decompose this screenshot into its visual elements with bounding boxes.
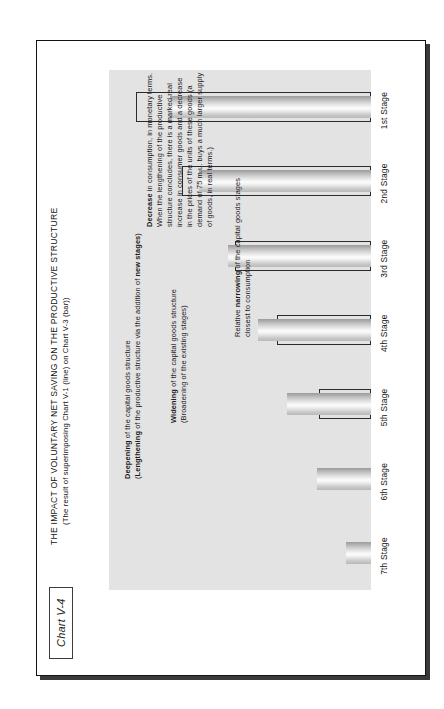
bar-7th-stage (346, 542, 371, 564)
annotation-widening-rest: of the capital goods structure (169, 289, 178, 389)
annotation-decrease-text: Decrease in consumption, in monetary ter… (145, 71, 215, 227)
annotation-narrowing-line2: closest to consumption (243, 178, 253, 337)
annotation-narrowing: Relative narrowing of the capital goods … (233, 178, 253, 337)
annotation-deepening-post: ) (133, 233, 142, 236)
annotation-widening-line2: (Broadening of the existing stages) (179, 289, 189, 423)
annotation-widening-line1: Widening of the capital goods structure (169, 289, 179, 423)
figure-subtitle: (The result of superimposing Chart V-1 (… (61, 125, 70, 545)
annotation-narrowing-bold: narrowing (233, 271, 242, 308)
page-frame: Chart V-4 THE IMPACT OF VOLUNTARY NET SA… (36, 40, 426, 676)
x-label-3rd-stage: 3rd Stage (379, 240, 389, 278)
annotation-decrease-bold: Decrease (145, 193, 154, 227)
annotation-decrease-body: in consumption, in monetary terms. When … (145, 73, 214, 227)
annotation-widening: Widening of the capital goods structure … (169, 289, 189, 423)
bar-4th-stage (258, 319, 371, 341)
page-canvas: Chart V-4 THE IMPACT OF VOLUNTARY NET SA… (0, 0, 444, 709)
x-label-2nd-stage: 2nd Stage (379, 163, 389, 203)
figure-title: THE IMPACT OF VOLUNTARY NET SAVING ON TH… (49, 125, 59, 545)
x-label-5th-stage: 5th Stage (379, 389, 389, 427)
annotation-narrowing-rest: of the capital goods stages (233, 178, 242, 271)
x-label-4th-stage: 4th Stage (379, 314, 389, 352)
annotation-deepening-rest: of the capital goods structure (123, 340, 132, 440)
annotation-deepening-bold: Deepening (123, 440, 132, 479)
x-label-6th-stage: 6th Stage (379, 463, 389, 501)
annotation-widening-bold: Widening (169, 389, 178, 423)
annotation-deepening-mid: of the productive structure via the addi… (133, 277, 142, 431)
annotation-deepening-bold3: new stages (133, 236, 142, 277)
annotation-narrowing-line1: Relative narrowing of the capital goods … (233, 178, 243, 337)
bar-5th-stage (287, 393, 371, 415)
figure-title-block: THE IMPACT OF VOLUNTARY NET SAVING ON TH… (49, 125, 70, 545)
rotated-figure-canvas: Chart V-4 THE IMPACT OF VOLUNTARY NET SA… (37, 41, 425, 675)
annotation-deepening-line1: Deepening of the capital goods structure (123, 233, 133, 479)
annotation-narrowing-pre: Relative (233, 307, 242, 337)
bar-2nd-stage (199, 170, 371, 192)
x-label-7th-stage: 7th Stage (379, 537, 389, 575)
annotation-deepening-pre: ( (133, 476, 142, 479)
annotation-deepening-line2: (Lengthening of the productive structure… (133, 233, 143, 479)
chart-tag-box: Chart V-4 (49, 587, 73, 659)
bar-6th-stage (317, 468, 371, 490)
annotation-deepening: Deepening of the capital goods structure… (123, 233, 143, 479)
annotation-deepening-bold2: Lengthening (133, 431, 142, 476)
x-label-1st-stage: 1st Stage (379, 92, 389, 129)
annotation-decrease: Decrease in consumption, in monetary ter… (145, 71, 215, 227)
